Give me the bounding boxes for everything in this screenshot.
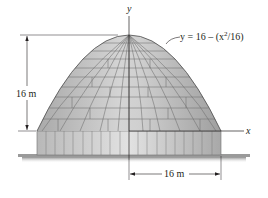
height-label: 16 m <box>16 88 37 99</box>
equation-prefix: y = 16 – (x <box>180 31 224 43</box>
parabolic-dome <box>0 35 268 131</box>
arrowhead-up-icon <box>25 36 28 41</box>
dome-diagram: y x y = 16 – (x2/16) 16 m 16 m <box>0 0 268 198</box>
y-axis-label: y <box>126 3 132 14</box>
curve-equation-label: y = 16 – (x2/16) <box>166 30 244 44</box>
ground <box>18 154 250 163</box>
arrowhead-right-icon <box>215 172 220 175</box>
arrowhead-down-icon <box>25 125 28 130</box>
x-axis-label: x <box>245 125 251 136</box>
arrowhead-left-icon <box>130 172 135 175</box>
equation-suffix: /16) <box>227 31 243 43</box>
svg-text:y = 16 – (x2/16): y = 16 – (x2/16) <box>180 30 244 43</box>
half-width-label: 16 m <box>164 168 185 179</box>
